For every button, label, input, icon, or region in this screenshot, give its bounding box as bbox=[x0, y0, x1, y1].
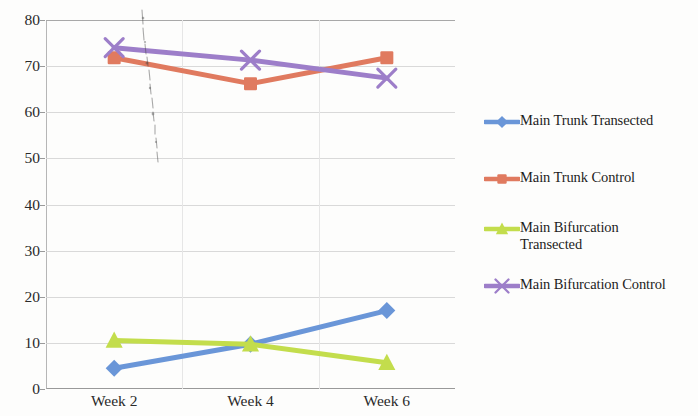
legend-entry[interactable]: Main Trunk Control bbox=[484, 169, 698, 188]
y-axis-tick bbox=[40, 20, 45, 21]
legend-label: Main Trunk Control bbox=[520, 169, 635, 186]
y-axis-tick bbox=[40, 251, 45, 252]
line-chart: 01020304050607080 bbox=[0, 0, 698, 416]
legend-marker-icon bbox=[484, 113, 520, 131]
y-axis-tick-label: 80 bbox=[2, 12, 40, 28]
y-axis-tick-label: 60 bbox=[2, 105, 40, 121]
data-point-marker bbox=[380, 51, 393, 64]
x-axis-tick-label: Week 2 bbox=[91, 392, 138, 410]
legend-entry[interactable]: Main Bifurcation Transected bbox=[484, 219, 698, 252]
legend-entry[interactable]: Main Trunk Transected bbox=[484, 112, 698, 131]
series-line bbox=[114, 48, 387, 78]
y-axis-tick-label: 10 bbox=[2, 335, 40, 351]
y-axis-tick-label: 40 bbox=[2, 197, 40, 213]
legend-marker-icon bbox=[484, 170, 520, 188]
y-axis-tick-label: 0 bbox=[2, 381, 40, 397]
y-axis-tick-label: 70 bbox=[2, 58, 40, 74]
x-axis: Week 2Week 4Week 6 bbox=[46, 392, 455, 416]
y-axis-tick bbox=[40, 158, 45, 159]
series-main-trunk-control bbox=[108, 51, 394, 90]
y-axis-tick bbox=[40, 112, 45, 113]
data-point-marker bbox=[106, 360, 123, 377]
x-axis-tick-label: Week 6 bbox=[364, 392, 411, 410]
data-series-layer bbox=[46, 20, 455, 389]
data-point-marker bbox=[378, 302, 395, 319]
legend-entry[interactable]: Main Bifurcation Control bbox=[484, 276, 698, 295]
legend-label: Main Bifurcation Control bbox=[520, 276, 666, 293]
legend-label: Main Bifurcation Transected bbox=[520, 219, 619, 252]
y-axis-tick bbox=[40, 343, 45, 344]
x-axis-tick-label: Week 4 bbox=[227, 392, 274, 410]
y-axis-tick-label: 30 bbox=[2, 243, 40, 259]
y-axis-tick-label: 50 bbox=[2, 151, 40, 167]
y-axis-tick bbox=[40, 205, 45, 206]
y-axis-tick-label: 20 bbox=[2, 289, 40, 305]
legend-label: Main Trunk Transected bbox=[520, 112, 653, 129]
y-axis-tick bbox=[40, 389, 45, 390]
legend-marker-icon bbox=[484, 220, 520, 238]
y-axis-tick bbox=[40, 297, 45, 298]
data-point-marker bbox=[244, 77, 257, 90]
y-axis-tick bbox=[40, 66, 45, 67]
legend-marker-icon bbox=[484, 277, 520, 295]
y-axis: 01020304050607080 bbox=[0, 20, 40, 389]
